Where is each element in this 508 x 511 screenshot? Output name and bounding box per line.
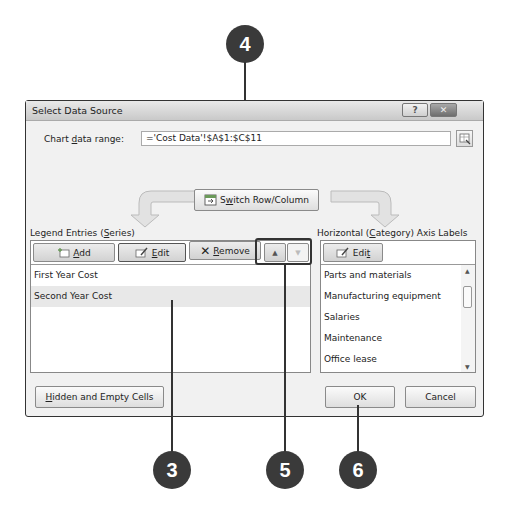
legend-entries-heading: Legend Entries (Series) bbox=[30, 228, 135, 238]
help-button[interactable]: ? bbox=[402, 103, 428, 117]
label-part: Chart bbox=[44, 134, 72, 144]
category-label: Manufacturing equipment bbox=[324, 291, 441, 301]
category-item[interactable]: Manufacturing equipment bbox=[321, 286, 461, 307]
callout-3: 3 bbox=[153, 451, 191, 489]
scrollbar-thumb[interactable] bbox=[463, 286, 472, 308]
series-label: Second Year Cost bbox=[34, 291, 112, 301]
scroll-down-icon[interactable]: ▼ bbox=[465, 363, 470, 370]
edit-icon bbox=[135, 247, 149, 258]
callout-4: 4 bbox=[226, 25, 264, 63]
close-button[interactable]: ✕ bbox=[430, 103, 457, 117]
chart-data-range-label: Chart data range: bbox=[44, 134, 124, 144]
title-bar: Select Data Source ? ✕ bbox=[26, 101, 483, 121]
category-item[interactable]: Office lease bbox=[321, 349, 461, 370]
close-icon: ✕ bbox=[440, 105, 448, 115]
left-curved-arrow-icon bbox=[121, 187, 201, 229]
label-part: dit bbox=[157, 248, 169, 258]
series-item-first-year-cost[interactable]: First Year Cost bbox=[31, 265, 310, 286]
label-accesskey: t bbox=[367, 248, 371, 258]
category-label: Maintenance bbox=[324, 333, 382, 343]
label-part: itch Row/Column bbox=[233, 195, 309, 205]
ok-label: OK bbox=[354, 392, 367, 402]
label-part: eries) bbox=[109, 228, 134, 238]
edit-icon bbox=[336, 247, 350, 258]
cancel-label: Cancel bbox=[425, 392, 456, 402]
switch-row-column-label: Switch Row/Column bbox=[220, 195, 309, 205]
callout-5: 5 bbox=[266, 451, 304, 489]
axis-labels-panel: Edit Parts and materials Manufacturing e… bbox=[320, 240, 476, 373]
callout-6: 6 bbox=[339, 451, 377, 489]
series-label: First Year Cost bbox=[34, 270, 98, 280]
range-value: ='Cost Data'!$A$1:$C$11 bbox=[146, 133, 262, 143]
category-label: Salaries bbox=[324, 312, 360, 322]
switch-row-column-icon bbox=[204, 194, 217, 206]
label-part: Legend Entries ( bbox=[30, 228, 104, 238]
scroll-up-icon[interactable]: ▲ bbox=[465, 267, 470, 274]
ok-button[interactable]: OK bbox=[325, 386, 395, 408]
callout-6-leader bbox=[357, 405, 359, 452]
help-icon: ? bbox=[412, 105, 417, 115]
label-part: Edi bbox=[353, 248, 367, 258]
hidden-and-empty-cells-button[interactable]: Hidden and Empty Cells bbox=[35, 386, 164, 408]
callout-5-leader bbox=[284, 264, 286, 452]
right-curved-arrow-icon bbox=[329, 187, 409, 229]
category-label: Office lease bbox=[324, 354, 377, 364]
label-part: Horizontal ( bbox=[317, 228, 369, 238]
category-label: Parts and materials bbox=[324, 270, 411, 280]
label-part: idden and Empty Cells bbox=[52, 392, 153, 402]
collapse-dialog-button[interactable] bbox=[456, 130, 473, 147]
chart-data-range-input[interactable]: ='Cost Data'!$A$1:$C$11 bbox=[141, 131, 451, 146]
dialog-title: Select Data Source bbox=[32, 105, 123, 116]
move-buttons-highlight bbox=[255, 238, 312, 265]
add-series-button[interactable]: Add bbox=[33, 243, 115, 262]
category-item[interactable]: Parts and materials bbox=[321, 265, 461, 286]
callout-3-leader bbox=[171, 300, 173, 452]
switch-row-column-button[interactable]: Switch Row/Column bbox=[194, 189, 319, 211]
add-icon bbox=[57, 247, 70, 258]
remove-icon: ✕ bbox=[200, 244, 210, 258]
label-part: ategory) Axis Labels bbox=[376, 228, 468, 238]
category-list: Parts and materials Manufacturing equipm… bbox=[321, 265, 461, 372]
remove-series-button[interactable]: ✕ Remove bbox=[189, 241, 261, 260]
label-part: dd bbox=[79, 248, 90, 258]
cancel-button[interactable]: Cancel bbox=[405, 386, 476, 408]
range-select-icon bbox=[457, 131, 472, 146]
category-list-scrollbar[interactable]: ▲ ▼ bbox=[461, 265, 475, 372]
edit-axis-labels-button[interactable]: Edit bbox=[323, 243, 383, 262]
edit-series-button[interactable]: Edit bbox=[118, 243, 186, 262]
axis-labels-heading: Horizontal (Category) Axis Labels bbox=[317, 228, 467, 238]
label-part: emove bbox=[219, 246, 250, 256]
label-part: ata range: bbox=[77, 134, 124, 144]
category-item[interactable]: Salaries bbox=[321, 307, 461, 328]
category-item[interactable]: Maintenance bbox=[321, 328, 461, 349]
